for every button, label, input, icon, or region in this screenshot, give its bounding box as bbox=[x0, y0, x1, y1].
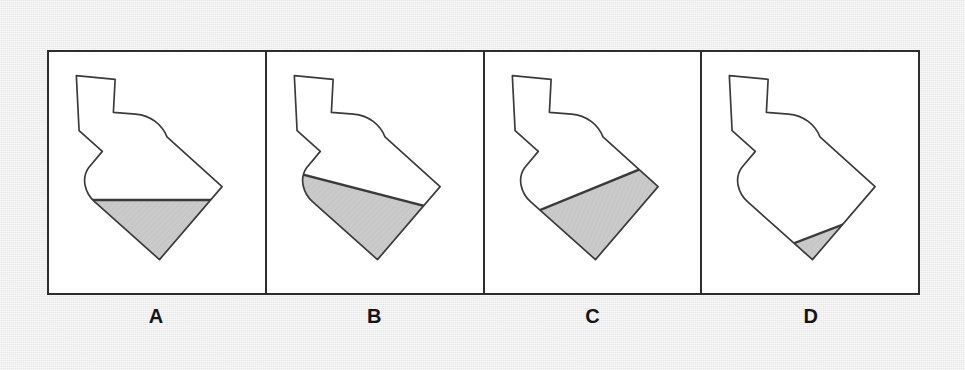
liquid-region-a bbox=[49, 200, 265, 293]
panel-strip bbox=[47, 50, 920, 295]
panel-captions: A B C D bbox=[47, 300, 920, 340]
panel-d bbox=[702, 52, 918, 293]
caption-d: D bbox=[702, 300, 920, 340]
liquid-surface-line-d bbox=[702, 165, 918, 293]
water-level-task-figure: A B C D bbox=[0, 0, 965, 370]
caption-a: A bbox=[47, 300, 265, 340]
panel-b bbox=[267, 52, 485, 293]
panel-c bbox=[485, 52, 703, 293]
caption-b: B bbox=[265, 300, 483, 340]
liquid-region-d bbox=[702, 165, 918, 293]
bottle-diagram-a bbox=[49, 52, 265, 293]
bottle-diagram-b bbox=[267, 52, 483, 293]
bottle-diagram-c bbox=[485, 52, 701, 293]
bottle-diagram-d bbox=[702, 52, 918, 293]
liquid-region-b bbox=[267, 150, 483, 293]
caption-c: C bbox=[484, 300, 702, 340]
panel-a bbox=[49, 52, 267, 293]
liquid-region-c bbox=[485, 98, 701, 293]
